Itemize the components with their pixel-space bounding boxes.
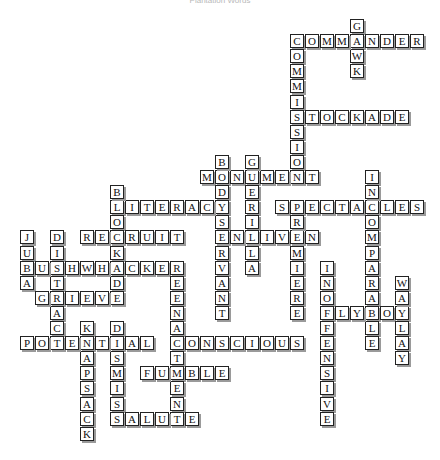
crossword-cell: S — [410, 200, 424, 214]
crossword-cell: D — [380, 110, 394, 124]
crossword-cell: I — [65, 291, 79, 305]
crossword-cell: T — [215, 306, 229, 320]
crossword-cell: H — [65, 261, 79, 275]
crossword-cell: L — [335, 306, 349, 320]
crossword-cell: E — [170, 291, 184, 305]
crossword-cell: T — [170, 412, 184, 426]
crossword-cell: I — [365, 170, 379, 184]
crossword-cell: B — [110, 185, 124, 199]
crossword-cell: A — [365, 261, 379, 275]
crossword-cell: V — [275, 230, 289, 244]
crossword-cell: I — [125, 200, 139, 214]
crossword-cell: I — [110, 336, 124, 350]
crossword-cell: K — [350, 110, 364, 124]
crossword-cell: E — [290, 276, 304, 290]
crossword-cell: A — [125, 412, 139, 426]
crossword-cell: E — [170, 276, 184, 290]
crossword-cell: I — [50, 246, 64, 260]
crossword-cell: E — [185, 412, 199, 426]
crossword-cell: K — [80, 321, 94, 335]
crossword-cell: M — [335, 34, 349, 48]
crossword-cell: L — [365, 321, 379, 335]
crossword-cell: J — [20, 230, 34, 244]
crossword-cell: R — [245, 200, 259, 214]
crossword-cell: R — [215, 246, 229, 260]
crossword-cell: I — [245, 336, 259, 350]
crossword-cell: W — [350, 49, 364, 63]
crossword-cell: L — [245, 230, 259, 244]
crossword-cell: Y — [350, 306, 364, 320]
crossword-cell: T — [95, 336, 109, 350]
crossword-cell: S — [320, 366, 334, 380]
crossword-cell: T — [305, 110, 319, 124]
crossword-cell: E — [215, 230, 229, 244]
crossword-cell: E — [320, 336, 334, 350]
crossword-cell: E — [170, 381, 184, 395]
crossword-cell: E — [305, 200, 319, 214]
crossword-cell: R — [290, 215, 304, 229]
crossword-cell: O — [320, 291, 334, 305]
crossword-cell: C — [110, 230, 124, 244]
crossword-cell: I — [290, 140, 304, 154]
crossword-cell: C — [365, 200, 379, 214]
crossword-cell: A — [350, 200, 364, 214]
crossword-cell: V — [95, 291, 109, 305]
crossword-cell: N — [230, 170, 244, 184]
crossword-cell: K — [80, 427, 94, 441]
crossword-cell: S — [110, 412, 124, 426]
crossword-cell: T — [140, 200, 154, 214]
crossword-cell: N — [170, 306, 184, 320]
crossword-cell: A — [245, 261, 259, 275]
crossword-cell: O — [290, 155, 304, 169]
crossword-cell: Y — [215, 200, 229, 214]
crossword-cell: U — [20, 246, 34, 260]
crossword-cell: C — [170, 336, 184, 350]
crossword-cell: A — [110, 261, 124, 275]
crossword-cell: E — [320, 412, 334, 426]
crossword-cell: B — [185, 366, 199, 380]
crossword-cell: O — [110, 215, 124, 229]
crossword-cell: I — [320, 381, 334, 395]
crossword-cell: N — [230, 230, 244, 244]
crossword-cell: S — [80, 381, 94, 395]
crossword-cell: T — [170, 230, 184, 244]
crossword-cell: N — [320, 276, 334, 290]
crossword-cell: M — [110, 366, 124, 380]
crossword-cell: F — [140, 366, 154, 380]
crossword-cell: N — [290, 170, 304, 184]
crossword-cell: T — [305, 170, 319, 184]
crossword-cell: G — [350, 19, 364, 33]
crossword-cell: L — [380, 200, 394, 214]
crossword-cell: I — [290, 261, 304, 275]
crossword-cell: A — [80, 351, 94, 365]
crossword-cell: I — [320, 261, 334, 275]
crossword-cell: S — [110, 397, 124, 411]
crossword-cell: U — [35, 261, 49, 275]
crossword-cell: A — [50, 306, 64, 320]
crossword-cell: N — [305, 230, 319, 244]
crossword-cell: U — [245, 170, 259, 184]
crossword-cell: E — [155, 200, 169, 214]
crossword-cell: S — [50, 261, 64, 275]
crossword-cell: E — [395, 200, 409, 214]
crossword-cell: E — [245, 185, 259, 199]
crossword-cell: R — [410, 34, 424, 48]
crossword-cell: U — [140, 230, 154, 244]
crossword-cell: R — [290, 291, 304, 305]
crossword-cell: M — [290, 79, 304, 93]
crossword-cell: A — [215, 276, 229, 290]
crossword-cell: N — [215, 291, 229, 305]
crossword-cell: U — [155, 366, 169, 380]
crossword-cell: U — [275, 336, 289, 350]
crossword-cell: K — [110, 246, 124, 260]
crossword-cell: R — [365, 276, 379, 290]
crossword-cell: E — [155, 261, 169, 275]
crossword-grid: GAWKCOMMNDEROMMISSIONTOCKADEMONUMETBDYSE… — [0, 0, 440, 460]
crossword-cell: S — [215, 215, 229, 229]
crossword-cell: U — [155, 412, 169, 426]
crossword-cell: S — [275, 200, 289, 214]
crossword-cell: E — [395, 110, 409, 124]
crossword-cell: F — [320, 306, 334, 320]
crossword-cell: H — [95, 261, 109, 275]
crossword-cell: W — [395, 276, 409, 290]
